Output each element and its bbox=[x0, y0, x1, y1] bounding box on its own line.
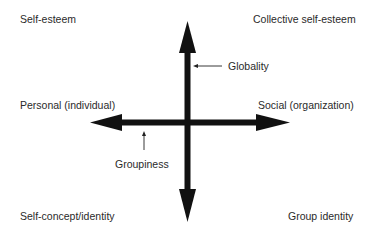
corner-label-self-esteem: Self-esteem bbox=[20, 13, 76, 25]
groupiness-label: Groupiness bbox=[115, 158, 169, 170]
globality-label: Globality bbox=[228, 60, 269, 72]
corner-label-collective-self-esteem: Collective self-esteem bbox=[253, 13, 356, 25]
axes-graphic bbox=[0, 0, 376, 235]
corner-label-self-concept-identity: Self-concept/identity bbox=[20, 210, 115, 222]
globality-pointer-arrow-icon bbox=[193, 64, 222, 68]
axis-label-personal: Personal (individual) bbox=[20, 99, 115, 111]
identity-quadrant-diagram: Self-esteem Collective self-esteem Globa… bbox=[0, 0, 376, 235]
axis-label-social: Social (organization) bbox=[258, 99, 354, 111]
groupiness-pointer-arrow-icon bbox=[142, 131, 146, 150]
corner-label-group-identity: Group identity bbox=[288, 210, 353, 222]
